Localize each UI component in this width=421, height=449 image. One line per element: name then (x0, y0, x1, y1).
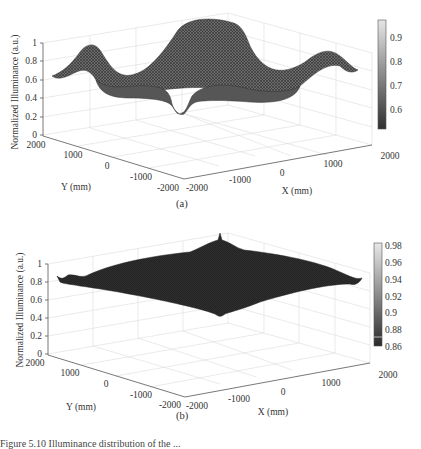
z-tick: 0.6 (30, 295, 42, 305)
surface-plot-a: 1 0.8 0.6 0.4 0.2 0 Normalized Illuminan… (0, 0, 421, 215)
x-tick: 2000 (381, 151, 400, 161)
y-axis-label-b: Y (mm) (66, 402, 96, 413)
x-tick: 1000 (322, 378, 341, 388)
x-tick: -1000 (228, 394, 250, 404)
z-tick-labels-a: 1 0.8 0.6 0.4 0.2 0 (25, 38, 37, 140)
panel-label-b: (b) (176, 410, 188, 421)
colorbar-tick: 0.9 (385, 308, 397, 318)
y-tick: 0 (105, 161, 110, 171)
chart-panel-b: 1 0.8 0.6 0.4 0.2 0 Normalized Illuminan… (0, 220, 421, 425)
z-tick: 1 (37, 259, 42, 269)
surface-plot-b: 1 0.8 0.6 0.4 0.2 0 Normalized Illuminan… (0, 220, 421, 425)
y-tick: -2000 (159, 400, 181, 410)
x-tick: 2000 (379, 370, 398, 380)
z-tick: 0.2 (25, 112, 37, 122)
colorbar-tick: 0.88 (385, 325, 402, 335)
z-axis-label-a: Normalized Illuminance (a.u.) (10, 34, 21, 149)
x-tick: -2000 (186, 183, 208, 193)
colorbar-tick: 0.9 (390, 33, 402, 43)
colorbar-tick: 0.96 (385, 258, 402, 268)
x-tick-labels-b: -2000 -1000 0 1000 2000 (186, 370, 398, 411)
x-tick: -1000 (229, 175, 251, 185)
colorbar-tick: 0.92 (385, 292, 402, 302)
x-tick: 0 (281, 387, 286, 397)
y-tick: 0 (104, 379, 109, 389)
colorbar-tick: 0.98 (385, 241, 402, 251)
z-tick: 1 (32, 38, 37, 48)
colorbar-tick: 0.8 (390, 57, 402, 67)
z-axis-label-b: Normalized Illuminance (a.u.) (15, 252, 26, 367)
z-tick: 0.2 (30, 331, 42, 341)
y-tick: -1000 (130, 172, 152, 182)
colorbar-tick: 0.7 (390, 81, 402, 91)
surface-mesh-b (57, 233, 362, 316)
z-tick: 0 (32, 130, 37, 140)
y-tick-labels-b: 2000 1000 0 -1000 -2000 (26, 358, 182, 410)
surface-mesh-a (52, 19, 358, 114)
y-tick: -2000 (157, 183, 179, 193)
z-tick: 0.8 (30, 277, 42, 287)
y-tick: 2000 (27, 140, 46, 150)
colorbar-tick: 0.86 (385, 342, 402, 352)
x-tick: 1000 (324, 159, 343, 169)
y-tick: 2000 (26, 358, 45, 368)
z-tick: 0.6 (25, 75, 37, 85)
z-tick: 0.4 (25, 93, 37, 103)
colorbar-tick: 0.6 (390, 105, 402, 115)
x-tick: -2000 (186, 401, 208, 411)
z-tick: 0.4 (30, 313, 42, 323)
y-tick: -1000 (130, 390, 152, 400)
figure-caption: Figure 5.10 Illuminance distribution of … (0, 438, 421, 449)
z-tick-labels-b: 1 0.8 0.6 0.4 0.2 0 (30, 259, 42, 359)
colorbar-tick: 0.94 (385, 275, 402, 285)
y-axis-label-a: Y (mm) (61, 182, 91, 193)
y-tick: 1000 (61, 368, 80, 378)
x-axis-label-b: X (mm) (258, 407, 288, 418)
x-axis-label-a: X (mm) (282, 186, 312, 197)
colorbar-b: 0.98 0.96 0.94 0.92 0.9 0.88 0.86 (374, 241, 402, 352)
y-tick: 1000 (64, 150, 83, 160)
z-tick: 0.8 (25, 56, 37, 66)
x-tick: 0 (280, 168, 285, 178)
colorbar-a: 0.9 0.8 0.7 0.6 (378, 20, 402, 129)
chart-panel-a: 1 0.8 0.6 0.4 0.2 0 Normalized Illuminan… (0, 0, 421, 215)
panel-label-a: (a) (176, 198, 188, 209)
